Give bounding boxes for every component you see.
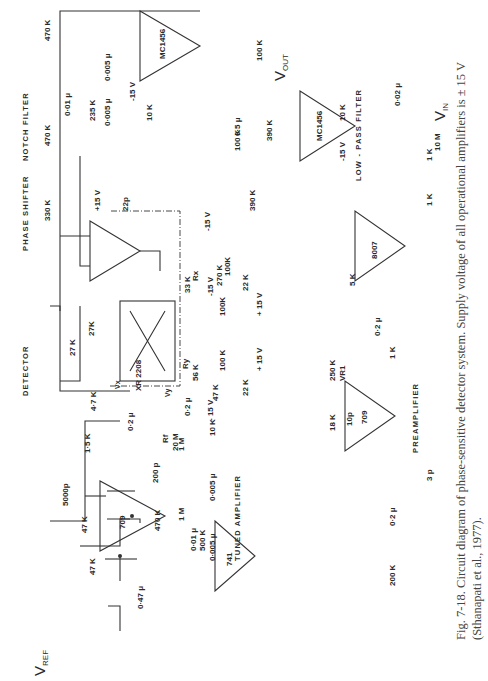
capacitor-label: 0·47 μ	[136, 586, 145, 609]
capacitor-label: 0·005 μ	[208, 473, 217, 501]
section-title-detector: DETECTOR	[21, 345, 30, 396]
resistor-label: 5 K	[348, 273, 357, 286]
resistor-label: 1 K	[425, 193, 434, 206]
resistor-label: Rf	[161, 434, 170, 443]
resistor-label: 390 K	[248, 189, 257, 211]
capacitor-label: 0·2 μ	[183, 397, 192, 416]
opamp-label: MC1456	[158, 28, 167, 59]
potentiometer-label: 10 K	[338, 104, 347, 121]
resistor-label: 10 M	[433, 133, 442, 151]
resistor-label: 56 K	[191, 364, 200, 381]
supply-label: - 15 V	[206, 399, 215, 421]
vout-label: VOUT	[271, 54, 290, 81]
capacitor-label: 200 p	[151, 462, 160, 483]
capacitor-label: 0·005 μ	[103, 98, 112, 126]
capacitor-label: 22p	[121, 197, 130, 211]
capacitor-label: 0·2 μ	[126, 412, 135, 431]
vout-terminal: VOUT	[271, 54, 290, 81]
potentiometer-label: 250 K	[328, 359, 337, 381]
vin-label: VIN	[431, 103, 450, 121]
circuit-diagram: PHASE SHIFTER DETECTOR NOTCH FILTER LOW …	[0, 0, 488, 681]
potentiometer-label: 10 K	[208, 419, 217, 436]
section-title-preamplifier: PREAMPLIFIER	[411, 383, 420, 453]
potentiometer-label: 22 K	[241, 274, 250, 291]
resistor-label: 470 K	[43, 124, 52, 146]
resistor-label: 1 M	[177, 437, 186, 451]
capacitor-label: 5000p	[61, 483, 70, 506]
capacitor-label: 0·01 μ	[189, 528, 198, 551]
phase-shifter-section: 709 47 K 47 K 0·47 μ 470 K 5000p 1·5 K 2…	[50, 421, 165, 631]
xr2208-section: +15 V 22p 270 K 100K -15 V	[60, 156, 232, 286]
resistor-label: 100 K	[255, 39, 264, 61]
resistor-label: 500 K	[198, 529, 207, 551]
potentiometer-label: 470 K	[153, 509, 162, 531]
capacitor-label: 0·005 μ	[208, 533, 217, 561]
section-title-tuned-amplifier: TUNED AMPLIFIER	[233, 475, 242, 561]
capacitor-label: 3 p	[425, 469, 434, 481]
supply-label: -15 V	[203, 211, 212, 231]
resistor-label: 47 K	[80, 516, 89, 533]
capacitor-label: 0·2 μ	[388, 507, 397, 526]
resistor-label: 1 M	[177, 507, 186, 521]
opamp-label: 709	[360, 410, 369, 424]
resistor-label: 470 K	[43, 19, 52, 41]
opamp-8007-preamp	[355, 211, 405, 281]
opamp-mc1456-notch	[140, 11, 200, 81]
resistor-label: 27K	[87, 321, 96, 336]
resistor-label: 200 K	[388, 564, 397, 586]
potentiometer-label: 10 K	[145, 104, 154, 121]
resistor-label: Ry	[181, 358, 190, 369]
resistor-label: 100 K	[218, 349, 227, 371]
capacitor-label: 0·5 μ	[233, 117, 242, 136]
opamp-label: 709	[118, 515, 127, 529]
section-title-notch-filter: NOTCH FILTER	[21, 92, 30, 161]
capacitor-label: 10p	[345, 412, 354, 426]
resistor-label: 27 K	[68, 339, 77, 356]
capacitor-label: 0·005 μ	[103, 53, 112, 81]
supply-label: +15 V	[93, 189, 102, 211]
resistor-label: 390 K	[265, 119, 274, 141]
resistor-label: 330 K	[43, 199, 52, 221]
capacitor-label: 0·2 μ	[373, 317, 382, 336]
resistor-label: 1 K	[388, 346, 397, 359]
capacitor-label: 0·01 μ	[63, 93, 72, 116]
section-title-phase-shifter: PHASE SHIFTER	[21, 175, 30, 251]
supply-label: + 15 V	[255, 292, 264, 316]
resistor-label: 47 K	[211, 384, 220, 401]
supply-label: -15 V	[338, 141, 347, 161]
detector-section: XR 2208 0·2 μ 4·7 K 27 K 27K 33 K Rx 56 …	[50, 211, 264, 431]
resistor-label: 18 K	[328, 414, 337, 431]
pin-label: Vx	[114, 380, 121, 389]
supply-label: + 15 V	[255, 347, 264, 371]
potentiometer-label: 22 K	[241, 379, 250, 396]
pin-label: Vy	[164, 389, 172, 397]
vref-label: VREF	[31, 650, 50, 676]
opamp-label: 8007	[370, 241, 379, 259]
supply-label: -15 V	[206, 276, 215, 296]
resistor-label: 4·7 K	[89, 391, 98, 411]
supply-label: -15 V	[128, 81, 137, 101]
resistor-label: 47 K	[88, 558, 97, 575]
potentiometer-label: 100K	[223, 257, 232, 276]
capacitor-label: 0·02 μ	[393, 83, 402, 106]
vin-terminal: VIN	[431, 103, 450, 121]
figure-description: Circuit diagram of phase-sensitive detec…	[454, 62, 484, 640]
figure-number: Fig. 7-18.	[454, 591, 468, 640]
resistor-label: Rx	[191, 270, 200, 281]
opamp-label: MC1456	[315, 110, 324, 141]
low-pass-filter-section: MC1456 390 K 390 K 0·5 μ 10 K -15 V	[233, 91, 355, 211]
caption-text: Fig. 7-18. Circuit diagram of phase-sens…	[453, 40, 485, 640]
vref-terminal: VREF	[31, 650, 50, 676]
resistor-label: 100K	[218, 297, 227, 316]
resistor-label: 1·5 K	[83, 433, 92, 453]
opamp-xr2208	[90, 221, 140, 281]
opamp-label: 741	[225, 552, 234, 566]
potentiometer-label: VR1	[338, 365, 347, 381]
detector-label: XR 2208	[134, 359, 143, 391]
figure-caption: Fig. 7-18. Circuit diagram of phase-sens…	[450, 0, 488, 681]
section-title-low-pass-filter: LOW - PASS FILTER	[354, 89, 363, 181]
resistor-label: 235 K	[88, 99, 97, 121]
